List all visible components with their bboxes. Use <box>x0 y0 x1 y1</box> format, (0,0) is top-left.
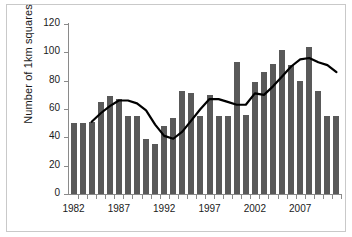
x-tick-mark <box>187 195 188 199</box>
x-tick-label-1997: 1997 <box>198 203 220 214</box>
x-tick-mark <box>151 195 152 199</box>
x-tick-mark <box>123 195 124 199</box>
x-tick-mark <box>96 195 97 199</box>
moving-average-line-series <box>69 24 341 194</box>
x-tick-mark <box>232 195 233 199</box>
x-tick-mark <box>241 195 242 199</box>
x-tick-mark <box>341 195 342 199</box>
x-tick-mark <box>250 195 251 199</box>
x-tick-label-2007: 2007 <box>289 203 311 214</box>
x-tick-mark <box>205 195 206 199</box>
x-tick-mark <box>132 195 133 199</box>
x-tick-mark <box>305 195 306 199</box>
x-tick-mark <box>296 195 297 199</box>
x-tick-mark <box>142 195 143 199</box>
x-tick-mark <box>105 195 106 199</box>
x-tick-mark <box>314 195 315 199</box>
moving-average-line <box>92 58 337 139</box>
x-tick-label-1987: 1987 <box>108 203 130 214</box>
y-tick-mark <box>64 194 69 195</box>
x-tick-mark <box>160 195 161 199</box>
x-tick-label-1992: 1992 <box>153 203 175 214</box>
y-tick-label: 100 <box>43 45 60 56</box>
y-tick-label: 60 <box>49 102 60 113</box>
x-tick-mark <box>78 195 79 199</box>
x-tick-mark <box>268 195 269 199</box>
x-tick-mark <box>169 195 170 199</box>
y-tick-label: 40 <box>49 130 60 141</box>
x-tick-mark <box>259 195 260 199</box>
x-tick-label-2002: 2002 <box>244 203 266 214</box>
x-tick-mark <box>287 195 288 199</box>
x-tick-mark <box>196 195 197 199</box>
x-tick-label-1982: 1982 <box>62 203 84 214</box>
x-tick-mark <box>178 195 179 199</box>
x-tick-mark <box>114 195 115 199</box>
y-tick-label: 120 <box>43 17 60 28</box>
y-tick-label: 0 <box>54 187 60 198</box>
x-tick-mark <box>332 195 333 199</box>
y-tick-label: 80 <box>49 74 60 85</box>
x-tick-mark <box>214 195 215 199</box>
x-tick-mark <box>278 195 279 199</box>
x-tick-mark <box>323 195 324 199</box>
y-tick-label: 20 <box>49 159 60 170</box>
y-axis-title: Number of 1km squares <box>22 0 34 144</box>
chart-figure: Number of 1km squares 020406080100120 19… <box>0 0 352 237</box>
plot-area <box>69 24 341 194</box>
x-tick-mark <box>223 195 224 199</box>
x-tick-mark <box>87 195 88 199</box>
